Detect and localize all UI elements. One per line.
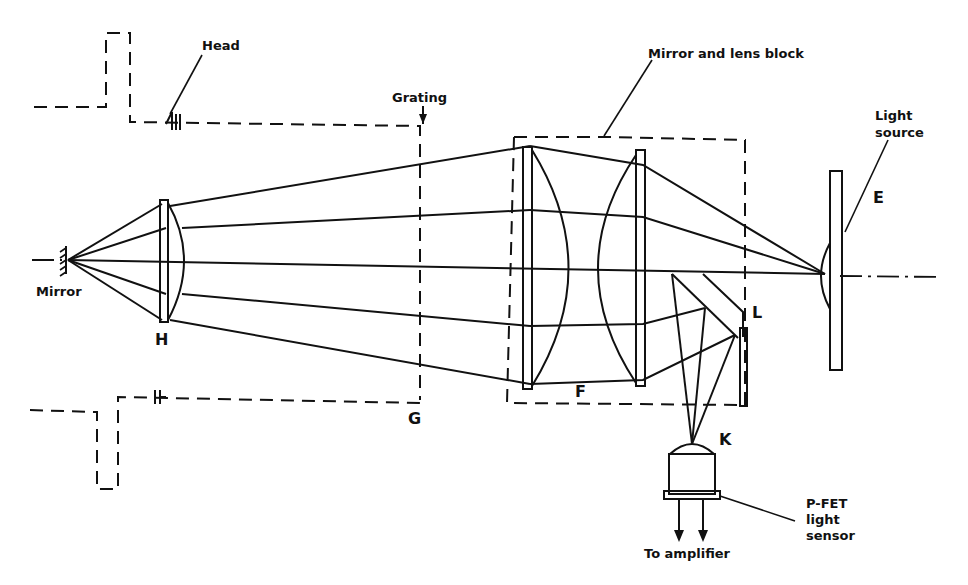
bearing-icon-top [166,112,180,130]
mirror-and-lens-block [507,60,745,405]
grating-arrowhead-icon [419,114,427,124]
label-mirror: Mirror [36,284,82,299]
label-l: L [752,303,762,322]
lens-f-second [598,150,645,386]
label-light-source-2: source [875,125,924,140]
label-g: G [408,409,421,428]
label-mirror-lens-block: Mirror and lens block [648,46,804,61]
arrow-down-icon [698,530,708,542]
optical-axis-right [840,276,940,277]
light-source-leader [845,140,888,232]
label-k: K [719,430,732,449]
prism-l [672,274,747,406]
light-rays [68,146,825,444]
block-leader [604,60,652,136]
label-light-source-1: Light [875,108,913,123]
optical-diagram: Head Grating Mirror and lens block Light… [0,0,968,585]
arrow-down-icon [674,530,684,542]
light-source-e [821,140,888,370]
pfet-sensor-k [664,444,795,542]
label-f: F [575,382,586,401]
label-pfet-1: P-FET [806,496,847,511]
mirror [60,246,66,276]
label-head: Head [202,38,240,53]
label-pfet-3: sensor [806,528,855,543]
label-e: E [873,188,884,207]
label-h: H [155,330,168,349]
sensor-leader [720,496,795,521]
label-pfet-2: light [806,512,840,527]
head-leader [170,55,202,114]
label-grating: Grating [392,90,447,105]
label-to-amplifier: To amplifier [644,546,731,561]
head-housing-bottom [30,390,420,489]
head-housing-top [34,33,420,400]
